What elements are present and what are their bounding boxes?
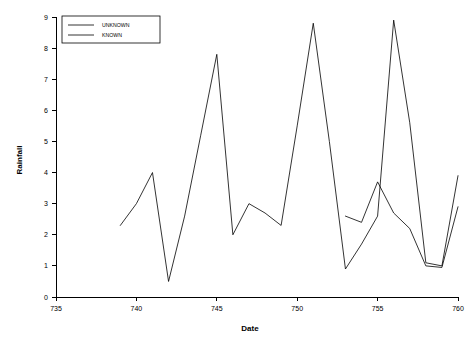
chart-canvas: 0123456789 735740745750755760 Rainfall D… xyxy=(0,0,475,338)
x-tick-label: 745 xyxy=(211,305,223,312)
x-tick-label: 755 xyxy=(372,305,384,312)
plot-frame xyxy=(56,17,458,297)
legend-background xyxy=(62,16,160,43)
y-tick-label: 7 xyxy=(44,76,48,83)
x-axis-ticks: 735740745750755760 xyxy=(50,297,464,312)
x-tick-label: 760 xyxy=(452,305,464,312)
y-axis-title: Rainfall xyxy=(15,146,24,175)
chart-legend: UNKNOWN KNOWN xyxy=(62,16,160,43)
legend-label-known: KNOWN xyxy=(102,32,122,38)
x-tick-label: 735 xyxy=(50,305,62,312)
x-tick-label: 740 xyxy=(131,305,143,312)
y-tick-label: 8 xyxy=(44,45,48,52)
y-tick-label: 6 xyxy=(44,107,48,114)
rainfall-line-chart: 0123456789 735740745750755760 Rainfall D… xyxy=(0,0,475,338)
y-tick-label: 0 xyxy=(44,294,48,301)
legend-label-unknown: UNKNOWN xyxy=(102,22,130,28)
series-line-known xyxy=(345,182,458,268)
y-tick-label: 5 xyxy=(44,138,48,145)
y-tick-label: 9 xyxy=(44,14,48,21)
series-layer xyxy=(120,20,458,281)
y-tick-label: 1 xyxy=(44,262,48,269)
y-tick-label: 4 xyxy=(44,169,48,176)
x-tick-label: 750 xyxy=(291,305,303,312)
y-tick-label: 2 xyxy=(44,231,48,238)
y-axis-ticks: 0123456789 xyxy=(44,14,56,301)
y-tick-label: 3 xyxy=(44,200,48,207)
x-axis-title: Date xyxy=(241,324,259,333)
series-line-unknown xyxy=(120,20,458,281)
